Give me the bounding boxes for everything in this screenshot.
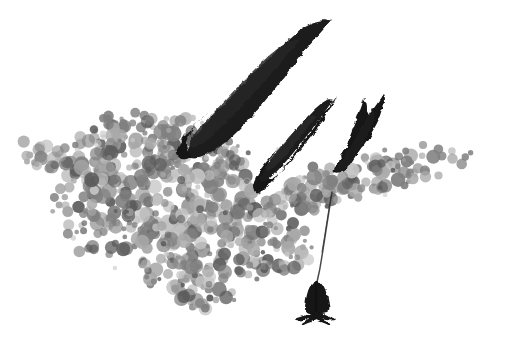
stipple-blob [50,193,59,202]
stipple-blob [125,210,129,214]
stipple-blob [157,277,161,281]
stipple-blob [93,229,102,238]
stipple-blob [55,183,66,194]
stipple-blob [79,191,90,202]
stipple-blob [106,155,112,161]
stipple-blob [277,269,282,274]
stipple-blob [62,194,68,200]
stipple-blob [246,150,251,155]
stipple-blob [80,227,87,234]
stipple-blob [63,229,73,239]
stipple-blob [246,262,253,269]
stipple-blob [229,161,239,171]
stipple-blob [337,171,348,182]
stipple-blob [383,193,388,198]
stipple-blob [233,207,245,219]
stipple-blob [161,241,166,246]
stipple-blob [232,298,236,302]
stipple-blob [402,147,409,154]
stipple-blob [413,163,423,173]
stipple-blob [184,259,199,274]
stipple-blob [254,276,259,281]
stipple-blob [333,196,341,204]
stipple-blob [212,187,227,202]
stipple-blob [218,265,232,279]
stipple-blob [195,218,201,224]
stipple-blob [103,119,113,129]
stipple-blob [160,135,167,142]
stipple-blob [306,169,322,185]
stipple-blob [122,235,127,240]
stipple-blob [144,116,153,125]
stipple-blob [237,220,242,225]
stipple-blob [300,244,306,250]
stipple-blob [377,159,386,168]
stipple-blob [74,246,86,258]
stipple-blob [90,216,105,231]
stipple-blob [132,222,138,228]
stipple-blob [108,174,121,187]
stipple-blob [130,138,135,143]
stipple-blob [196,205,204,213]
stipple-blob [129,120,136,127]
stipple-blob [90,125,98,133]
stipple-blob [94,140,102,148]
stipple-blob [167,187,172,192]
stipple-blob [234,266,243,275]
stipple-blob [157,221,167,231]
stipple-blob [152,210,159,217]
stipple-blob [52,145,64,157]
stipple-blob [144,224,151,231]
stipple-blob [82,134,96,148]
stipple-blob [274,226,278,230]
stipple-blob [391,168,396,173]
stipple-blob [195,184,200,189]
stipple-blob [100,131,107,138]
stipple-blob [216,156,224,164]
stipple-blob [164,252,169,257]
stipple-blob [105,241,118,254]
stipple-blob [130,108,140,118]
stipple-blob [50,161,59,170]
stipple-blob [87,199,98,210]
stipple-blob [322,189,328,195]
stipple-blob [84,172,99,187]
stipple-blob [64,182,74,192]
stipple-blob [395,152,403,160]
stipple-blob [462,153,469,160]
stipple-blob [135,235,149,249]
stipple-blob [34,162,39,167]
stipple-blob [81,220,87,226]
artwork-canvas: Ink and stipple illustration of winged f… [0,0,505,352]
stipple-blob [219,291,233,305]
stipple-blob [261,250,265,254]
stipple-blob [220,230,233,243]
stipple-blob [206,295,213,302]
stipple-blob [202,266,214,278]
stipple-blob [303,254,315,266]
stipple-blob [402,158,406,162]
stipple-blob [297,183,307,193]
stipple-blob [50,209,55,214]
stipple-blob [310,189,323,202]
stipple-blob [151,279,157,285]
stipple-blob [239,242,252,255]
stipple-blob [117,139,121,143]
stipple-blob [126,164,132,170]
stipple-blob [90,147,103,160]
stipple-blob [269,237,278,246]
stipple-blob [163,269,173,279]
stipple-blob [169,115,180,126]
stipple-blob [207,217,217,227]
stipple-blob [226,174,240,188]
stipple-blob [84,244,92,252]
stipple-blob [63,219,74,230]
stipple-blob [160,172,166,178]
stipple-blob [177,234,192,249]
stipple-blob [206,281,213,288]
stipple-blob [136,175,148,187]
stipple-blob [273,191,287,205]
stipple-blob [141,259,151,269]
stipple-blob [434,171,442,179]
stipple-blob [74,230,79,235]
